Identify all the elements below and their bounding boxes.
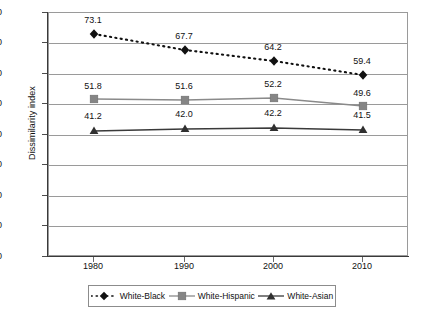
y-tick-label-60: 60 [0,69,2,78]
series-plot-svg [49,13,407,255]
legend-item-white-hispanic[interactable]: White-Hispanic [169,291,255,301]
y-axis-title: Dissimilarity index [27,43,37,203]
series-line-white-black [94,34,363,75]
y-tick-label-50: 50 [0,99,2,108]
legend-marker-diamond-icon [91,291,117,301]
value-label-white-asian-1990: 42.0 [162,110,206,119]
dissimilarity-index-line-chart: Dissimilarity index 80 70 60 50 40 30 20… [0,0,421,319]
value-label-white-black-1980: 73.1 [71,16,115,25]
y-tick-label-40: 40 [0,130,2,139]
value-label-white-hispanic-1980: 51.8 [71,82,115,91]
legend-label-white-black: White-Black [120,292,165,301]
x-tick-label-2010: 2010 [332,261,392,271]
x-axis-spine [47,256,409,257]
x-tick-label-1980: 1980 [63,261,123,271]
legend-label-white-asian: White-Asian [287,292,333,301]
plot-area [48,12,408,256]
legend-item-white-black[interactable]: White-Black [91,291,165,301]
y-tick-label-20: 20 [0,191,2,200]
series-line-white-asian [94,128,363,131]
x-tick-label-1990: 1990 [154,261,214,271]
value-label-white-asian-1980: 41.2 [71,112,115,121]
y-tick-label-70: 70 [0,38,2,47]
y-tick-label-30: 30 [0,160,2,169]
value-label-white-black-2010: 59.4 [340,57,384,66]
y-tick-label-80: 80 [0,8,2,17]
legend-marker-square-icon [169,291,195,301]
value-label-white-hispanic-1990: 51.6 [162,82,206,91]
value-label-white-hispanic-2000: 52.2 [251,80,295,89]
legend-label-white-hispanic: White-Hispanic [198,292,255,301]
legend-marker-triangle-icon [258,291,284,301]
value-label-white-black-2000: 64.2 [251,43,295,52]
chart-legend: White-Black White-Hispanic White-Asian [88,285,336,307]
x-tick-label-2000: 2000 [243,261,303,271]
legend-item-white-asian[interactable]: White-Asian [258,291,333,301]
y-tick-label-0: 0 [0,252,2,261]
value-label-white-asian-2000: 42.2 [251,109,295,118]
value-label-white-asian-2010: 41.5 [340,111,384,120]
y-tick-label-10: 10 [0,221,2,230]
value-label-white-hispanic-2010: 49.6 [340,89,384,98]
series-line-white-hispanic [94,98,363,106]
value-label-white-black-1990: 67.7 [162,32,206,41]
